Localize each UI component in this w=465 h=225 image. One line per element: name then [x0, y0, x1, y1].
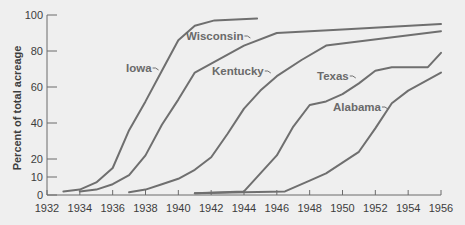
series-label-texas: Texas — [317, 70, 349, 82]
x-tick-label: 1944 — [232, 202, 256, 214]
x-tick-label: 1932 — [35, 202, 59, 214]
x-tick-label: 1950 — [330, 202, 354, 214]
series-line-iowa — [63, 19, 257, 192]
x-tick-label: 1956 — [429, 202, 453, 214]
series-lines — [63, 19, 441, 194]
x-tick-label: 1938 — [133, 202, 157, 214]
series-label-wisconsin: Wisconsin — [186, 30, 243, 42]
x-tick-label: 1952 — [363, 202, 387, 214]
x-tick-label: 1934 — [68, 202, 92, 214]
leader-line — [265, 71, 271, 73]
x-tick-label: 1942 — [199, 202, 223, 214]
series-label-alabama: Alabama — [333, 101, 382, 113]
y-tick-label: 40 — [31, 117, 43, 129]
leader-line — [244, 36, 250, 38]
series-label-kentucky: Kentucky — [212, 65, 264, 77]
x-tick-label: 1948 — [297, 202, 321, 214]
series-label-iowa: Iowa — [126, 62, 152, 74]
series-line-alabama — [195, 73, 441, 194]
leader-line — [350, 76, 356, 78]
x-tick-label: 1940 — [166, 202, 190, 214]
y-tick-label: 0 — [37, 189, 43, 201]
y-tick-label: 80 — [31, 45, 43, 57]
y-axis-label: Percent of total acreage — [11, 46, 23, 171]
line-chart: 0102040608010019321934193619381940194219… — [0, 0, 465, 225]
y-tick-label: 20 — [31, 153, 43, 165]
x-tick-label: 1936 — [100, 202, 124, 214]
leader-line — [382, 107, 388, 109]
x-tick-label: 1954 — [396, 202, 420, 214]
leader-line — [153, 68, 159, 70]
series-line-kentucky — [129, 31, 441, 192]
y-tick-label: 10 — [31, 171, 43, 183]
y-tick-label: 60 — [31, 81, 43, 93]
x-tick-label: 1946 — [265, 202, 289, 214]
y-tick-label: 100 — [25, 9, 43, 21]
